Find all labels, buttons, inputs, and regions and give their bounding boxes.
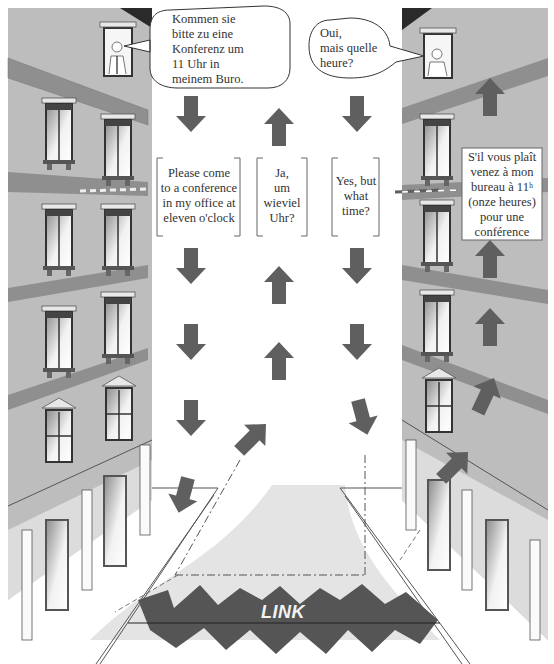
french-request-box: S'il vous plaît venez à mon bureau à 11ʰ… — [462, 150, 542, 240]
left-building — [8, 8, 152, 640]
german-speech-bubble: Kommen sie bitte zu eine Konferenz um 11… — [172, 12, 287, 87]
english-reply-box: Yes, but what time? — [333, 174, 379, 219]
street-scene-illustration — [0, 0, 554, 664]
french-speech-bubble: Oui, mais quelle heure? — [320, 26, 400, 71]
link-label: LINK — [261, 602, 305, 623]
german-reply-box: Ja, um wieviel Uhr? — [258, 166, 306, 226]
interpreting-diagram: Kommen sie bitte zu eine Konferenz um 11… — [0, 0, 554, 664]
arrow-column-3 — [342, 96, 382, 439]
arrow-column-2 — [229, 108, 294, 461]
english-request-box: Please come to a conference in my office… — [158, 166, 240, 226]
arrow-column-1 — [164, 96, 206, 517]
